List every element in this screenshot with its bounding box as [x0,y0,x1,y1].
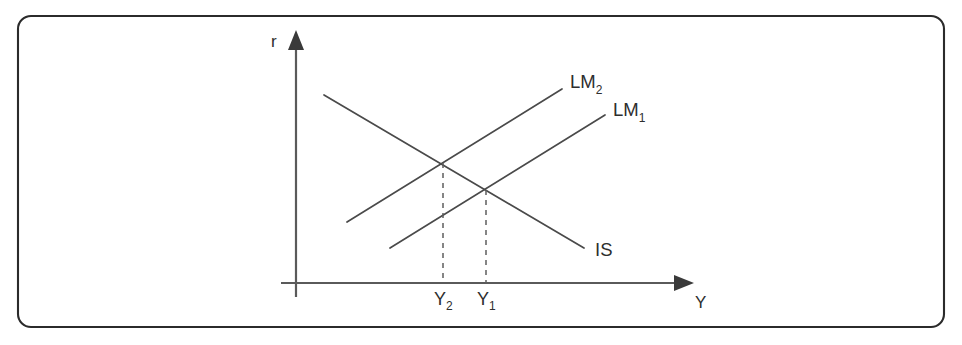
lm2-curve-label: LM2 [570,71,603,97]
is-lm-diagram: r Y IS LM2 LM1 Y2 Y1 [0,0,962,345]
right-arrow-icon [674,275,694,291]
up-arrow-icon [288,30,304,50]
lm2-label-subscript: 2 [596,83,603,97]
lm1-label-subscript: 1 [639,111,646,125]
lm1-curve [390,115,605,248]
tick-label-y1-text: Y [477,289,489,309]
horizontal-axis-label: Y [695,293,706,312]
vertical-axis-label: r [271,32,277,51]
tick-label-y2-subscript: 2 [446,299,453,313]
is-curve [324,95,584,248]
lm1-curve-label: LM1 [613,99,646,125]
figure-container: r Y IS LM2 LM1 Y2 Y1 [0,0,962,345]
tick-label-y2: Y2 [434,289,453,313]
tick-label-y1-subscript: 1 [489,299,496,313]
tick-label-y2-text: Y [434,289,446,309]
is-curve-label: IS [595,239,612,260]
tick-label-y1: Y1 [477,289,496,313]
lm1-label-text: LM [613,99,639,120]
figure-frame-border [18,16,944,327]
lm2-label-text: LM [570,71,596,92]
lm2-curve [347,89,562,222]
